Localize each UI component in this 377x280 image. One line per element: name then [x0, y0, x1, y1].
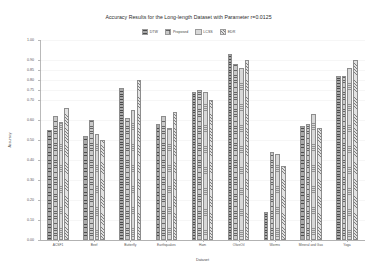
- bar-groups: [40, 40, 365, 240]
- bar: [306, 124, 311, 240]
- bar: [125, 118, 130, 240]
- bar: [192, 92, 197, 240]
- legend-label: EDR: [228, 30, 236, 34]
- bar: [59, 122, 64, 240]
- x-tick-mark: [203, 240, 204, 242]
- x-tick-mark: [130, 240, 131, 242]
- plot-area: Accuracy 0.000.100.200.300.400.500.600.7…: [40, 40, 365, 240]
- bar-group: [148, 40, 184, 240]
- bar-group: [76, 40, 112, 240]
- bar: [281, 166, 286, 240]
- bar-group: [221, 40, 257, 240]
- legend-entry: Proposed: [165, 29, 188, 35]
- y-tick-label: 0.00: [27, 238, 34, 242]
- bar: [264, 212, 269, 240]
- bar: [233, 64, 238, 240]
- bar: [47, 130, 52, 240]
- bar: [83, 136, 88, 240]
- legend-swatch: [220, 29, 227, 35]
- x-tick-label: Earthquakes: [157, 243, 176, 247]
- y-tick-label: 0.30: [27, 178, 34, 182]
- y-tick-mark: [38, 240, 40, 241]
- bar: [137, 80, 142, 240]
- x-tick-mark: [347, 240, 348, 242]
- legend-entry: EDR: [220, 29, 236, 35]
- x-tick-mark: [94, 240, 95, 242]
- bar: [53, 116, 58, 240]
- legend-entry: LCSS: [195, 29, 212, 35]
- bar: [95, 134, 100, 240]
- x-tick-label: Butterfly: [124, 243, 136, 247]
- bar: [245, 60, 250, 240]
- x-tick-label: Yoga: [343, 243, 350, 247]
- bar: [209, 100, 214, 240]
- legend-label: LCSS: [203, 30, 212, 34]
- x-tick-label: ACSF1: [53, 243, 64, 247]
- bar: [275, 154, 280, 240]
- y-tick-label: 1.00: [27, 38, 34, 42]
- legend-entry: DTW: [142, 29, 158, 35]
- bar-group: [293, 40, 329, 240]
- chart-legend: DTWProposedLCSSEDR: [0, 29, 377, 35]
- y-tick-label: 0.75: [27, 88, 34, 92]
- x-tick-label: OliveOil: [233, 243, 245, 247]
- legend-swatch: [142, 29, 149, 35]
- x-tick-label: Ham: [199, 243, 206, 247]
- y-tick-label: 0.90: [27, 58, 34, 62]
- y-tick-label: 0.85: [27, 68, 34, 72]
- chart-title: Accuracy Results for the Long-length Dat…: [0, 14, 377, 20]
- bar: [353, 60, 358, 240]
- bar-group: [184, 40, 220, 240]
- bar: [203, 92, 208, 240]
- y-tick-label: 0.10: [27, 218, 34, 222]
- bar: [64, 108, 69, 240]
- x-tick-mark: [166, 240, 167, 242]
- x-tick-mark: [58, 240, 59, 242]
- bar-group: [112, 40, 148, 240]
- bar: [119, 88, 124, 240]
- chart-figure: Accuracy Results for the Long-length Dat…: [0, 0, 377, 280]
- x-tick-mark: [275, 240, 276, 242]
- bar-group: [257, 40, 293, 240]
- bar: [89, 120, 94, 240]
- bar: [228, 54, 233, 240]
- bar-group: [40, 40, 76, 240]
- bar: [173, 112, 178, 240]
- bar: [239, 68, 244, 240]
- bar: [270, 152, 275, 240]
- bar-group: [329, 40, 365, 240]
- bar: [161, 116, 166, 240]
- x-axis-label: Dataset: [40, 258, 365, 262]
- bar: [300, 126, 305, 240]
- legend-swatch: [165, 29, 172, 35]
- bar: [197, 90, 202, 240]
- x-tick-label: Worms: [270, 243, 280, 247]
- bar: [347, 68, 352, 240]
- x-tick-label: Beef: [91, 243, 98, 247]
- bar: [100, 140, 105, 240]
- y-tick-label: 0.50: [27, 138, 34, 142]
- bar: [156, 124, 161, 240]
- y-tick-label: 0.20: [27, 198, 34, 202]
- y-axis-label: Accuracy: [8, 132, 12, 147]
- bar: [131, 110, 136, 240]
- bar: [317, 128, 322, 240]
- x-tick-mark: [239, 240, 240, 242]
- bar: [311, 114, 316, 240]
- y-tick-label: 0.80: [27, 78, 34, 82]
- bar: [342, 76, 347, 240]
- legend-label: Proposed: [173, 30, 188, 34]
- legend-swatch: [195, 29, 202, 35]
- bar: [336, 76, 341, 240]
- y-tick-label: 0.70: [27, 98, 34, 102]
- y-tick-label: 0.40: [27, 158, 34, 162]
- x-tick-mark: [311, 240, 312, 242]
- x-tick-label: Mineral and Gas: [299, 243, 323, 247]
- legend-label: DTW: [150, 30, 158, 34]
- bar: [167, 128, 172, 240]
- y-tick-label: 0.60: [27, 118, 34, 122]
